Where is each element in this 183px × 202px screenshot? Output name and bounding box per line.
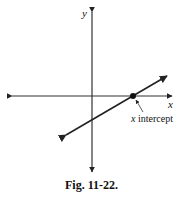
x-intercept-label: x intercept (130, 113, 173, 124)
figure-caption: Fig. 11-22. (0, 178, 183, 193)
graph-line (66, 76, 167, 135)
x-axis-label: x (167, 98, 173, 110)
coordinate-diagram: y x x intercept (0, 0, 183, 202)
y-axis-label: y (81, 7, 87, 19)
annotation-leader (136, 100, 143, 112)
x-intercept-point (130, 93, 136, 99)
